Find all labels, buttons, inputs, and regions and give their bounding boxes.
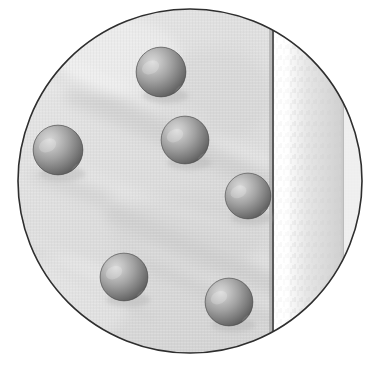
sphere-right: Sphere 4 xyxy=(225,173,271,219)
sphere-top-center: Sphere 1 xyxy=(136,47,186,97)
sphere-bottom-right: Sphere 6 xyxy=(205,278,253,326)
sphere-left: Sphere 3 xyxy=(33,125,83,175)
sphere-mid-center: Sphere 2 xyxy=(161,116,209,164)
seam-shadow xyxy=(269,0,272,366)
sphere-bottom-left: Sphere 5 xyxy=(100,253,148,301)
dark-seam-line xyxy=(272,0,274,366)
circular-sphere-figure: Circular cropped photograph of spheres o… xyxy=(0,0,380,366)
figure-canvas: Circular cropped photograph of spheres o… xyxy=(0,0,380,366)
